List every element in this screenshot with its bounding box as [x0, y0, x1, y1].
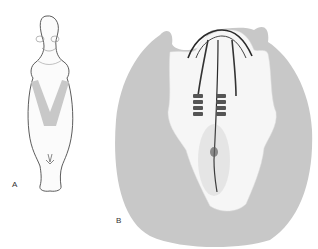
embryo-a-outline [28, 16, 73, 191]
figure-canvas [0, 0, 318, 249]
primitive-streak-shade [198, 124, 230, 196]
panel-b-label: B [116, 216, 121, 225]
panel-a-embryo [28, 16, 73, 191]
panel-b-embryo [115, 27, 312, 247]
panel-a-label: A [12, 180, 17, 189]
